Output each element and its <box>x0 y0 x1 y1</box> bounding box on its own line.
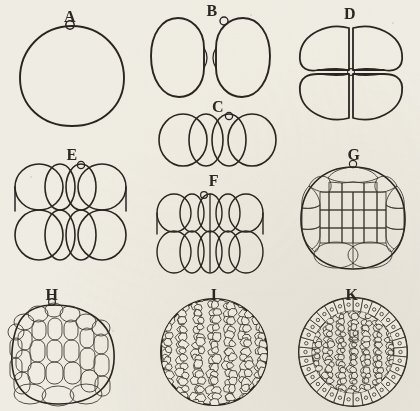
panel-label-a: A <box>60 8 80 26</box>
panel-b-figure <box>148 10 276 106</box>
panel-a-figure <box>6 10 138 132</box>
panel-g-figure <box>292 155 414 279</box>
panel-c: C <box>155 104 281 168</box>
panel-label-d: D <box>340 5 360 23</box>
panel-label-k: K <box>342 286 362 304</box>
panel-label-i: I <box>204 286 224 304</box>
panel-b: B <box>148 10 276 106</box>
panel-label-e: E <box>62 146 82 164</box>
panel-label-g: G <box>344 146 364 164</box>
panel-h: H <box>8 292 138 410</box>
panel-a: A <box>6 10 138 132</box>
panel-d-figure <box>288 10 414 134</box>
panel-h-figure <box>8 292 138 410</box>
panel-label-b: B <box>202 2 222 20</box>
panel-f: F <box>152 188 280 280</box>
panel-f-figure <box>152 188 280 280</box>
panel-d: D <box>288 10 414 134</box>
panel-i-figure <box>152 292 280 410</box>
panel-label-h: H <box>42 286 62 304</box>
panel-e: E <box>10 155 138 273</box>
panel-g: G <box>292 155 414 279</box>
panel-k: K <box>292 292 416 410</box>
panel-k-figure <box>292 292 416 410</box>
panel-i: I <box>152 292 280 410</box>
center-point-icon <box>348 69 355 76</box>
panel-label-f: F <box>204 172 224 190</box>
panel-e-figure <box>10 155 138 273</box>
panel-label-c: C <box>208 98 228 116</box>
embryology-plate: A B D C <box>0 0 420 411</box>
